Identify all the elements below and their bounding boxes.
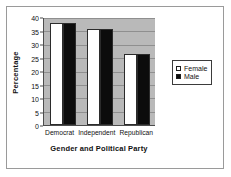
legend-item: Female [176,65,207,72]
bar-group [87,18,113,125]
y-axis-title: Percentage [9,18,21,126]
y-axis-ticks: 0510152025303540 [22,18,43,126]
legend-item: Male [176,73,207,80]
y-axis-tick-label: 20 [31,69,39,76]
y-axis-tick-label: 0 [35,123,39,130]
bar-independent-female [87,29,100,125]
bar-republican-female [124,54,137,125]
y-axis-tick-label: 25 [31,55,39,62]
x-axis-title: Gender and Political Party [20,144,178,153]
chart-figure: Percentage 0510152025303540 DemocratInde… [0,0,231,177]
y-axis-tick-label: 10 [31,96,39,103]
bar-independent-male [100,29,113,125]
plot-area [43,18,155,126]
y-axis-tick-label: 30 [31,42,39,49]
bar-democrat-female [50,23,63,125]
bar-group [50,18,76,125]
chart-legend: FemaleMale [172,60,212,85]
y-axis-tick-label: 15 [31,82,39,89]
x-axis-tick-label: Republican [119,129,152,136]
legend-item-label: Male [184,73,199,80]
y-axis-tick-label: 5 [35,109,39,116]
x-axis-tick-labels: DemocratIndependentRepublican [43,129,155,136]
hollow-square-swatch [176,66,181,71]
bar-democrat-male [63,23,76,125]
y-axis-title-label: Percentage [11,51,20,93]
y-axis-tick-label: 35 [31,28,39,35]
bar-groups [44,18,155,125]
legend-item-label: Female [184,65,207,72]
bar-republican-male [137,54,150,125]
x-axis-tick-label: Independent [78,129,115,136]
y-axis-tick-label: 40 [31,15,39,22]
x-axis-tick-label: Democrat [45,129,74,136]
bar-group [124,18,150,125]
filled-square-swatch [176,74,181,79]
